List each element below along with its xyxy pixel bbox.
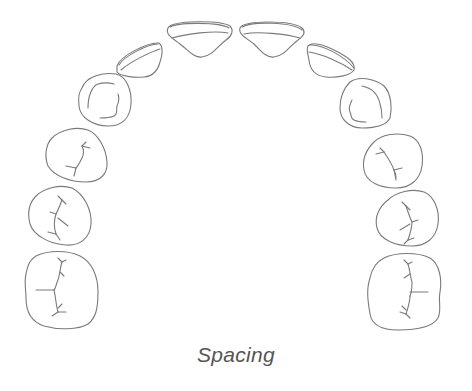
tooth-upper-left-canine [79, 74, 131, 126]
diagram-caption: Spacing [0, 343, 472, 367]
tooth-upper-left-first-premolar [46, 128, 107, 182]
tooth-upper-right-lateral-incisor [307, 44, 354, 77]
tooth-upper-right-central-incisor [240, 22, 304, 57]
tooth-upper-left-central-incisor [167, 22, 232, 57]
tooth-upper-left-second-premolar [29, 186, 91, 245]
dental-arch-diagram [0, 0, 472, 391]
tooth-upper-right-second-premolar [376, 190, 438, 246]
tooth-upper-left-lateral-incisor [117, 43, 162, 77]
tooth-upper-right-canine [340, 79, 391, 128]
tooth-upper-right-first-molar [368, 254, 441, 331]
tooth-upper-right-first-premolar [363, 134, 422, 188]
tooth-upper-left-first-molar [25, 252, 98, 329]
